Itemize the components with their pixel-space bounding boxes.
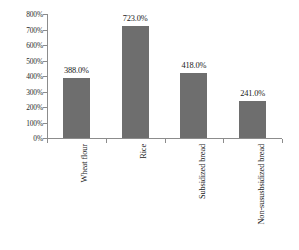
y-axis-tick-label: 700% (1, 25, 43, 34)
bar-value-label: 388.0% (64, 66, 89, 75)
x-axis-category-label: Subsidized bread (198, 144, 207, 199)
y-axis-tick-label: 100% (1, 118, 43, 127)
y-axis-tick-label: 200% (1, 103, 43, 112)
x-axis-tick-mark (282, 139, 283, 143)
y-axis-tick-label: 600% (1, 41, 43, 50)
y-axis-tick-label: 800% (1, 10, 43, 19)
bar-value-label: 723.0% (123, 14, 148, 23)
x-axis-category-label: Wheat flour (80, 144, 89, 183)
bar-value-label: 418.0% (181, 61, 206, 70)
bar (63, 78, 90, 138)
y-axis-tick-label: 400% (1, 72, 43, 81)
y-axis-tick-label: 500% (1, 56, 43, 65)
x-axis-tick-mark (106, 139, 107, 143)
bar-value-label: 241.0% (240, 89, 265, 98)
x-axis-category-label: Non-sususbsidized bread (257, 144, 266, 225)
y-axis-tick-label: 300% (1, 87, 43, 96)
x-axis-tick-mark (165, 139, 166, 143)
x-axis-category-label: Rice (139, 144, 148, 159)
x-axis-tick-mark (47, 139, 48, 143)
x-axis-tick-mark (223, 139, 224, 143)
bar (122, 26, 149, 138)
bar (180, 73, 207, 138)
chart-figure: 0%100%200%300%400%500%600%700%800% 388.0… (0, 0, 299, 250)
y-axis-tick-label: 0% (1, 134, 43, 143)
bar (239, 101, 266, 138)
bar-group (47, 14, 282, 138)
y-axis-label-group: 0%100%200%300%400%500%600%700%800% (0, 0, 43, 250)
